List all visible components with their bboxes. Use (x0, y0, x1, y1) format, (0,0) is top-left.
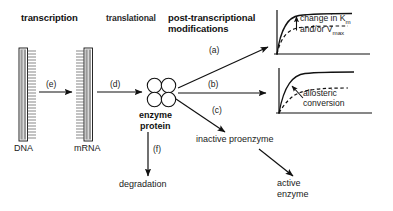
mrna-strand-graphic (76, 48, 93, 141)
node-label-inactive-proenzyme: inactive proenzyme (196, 134, 274, 144)
step-label-e: (e) (46, 79, 56, 89)
graph1-annotation-text2: and/or V (300, 24, 333, 34)
arrow-c (176, 99, 225, 132)
arrow-a (178, 47, 268, 88)
graph1-annotation-text1: change in K (300, 13, 345, 23)
enzyme-protein-graphic (147, 78, 175, 106)
step-label-a: (a) (209, 45, 219, 55)
dna-strand-graphic (19, 48, 36, 141)
node-label-degradation: degradation (119, 179, 167, 189)
diagram-canvas: transcription translational post-transcr… (0, 0, 393, 211)
node-label-enzyme-line2: protein (140, 121, 171, 131)
graph2-annotation-line2: conversion (303, 99, 345, 109)
step-label-f: (f) (153, 144, 161, 154)
step-label-c: (c) (212, 105, 222, 115)
graph1-annotation-sub2: max (333, 29, 345, 36)
graph1-annotation-sub1: m (345, 18, 350, 25)
step-label-d: (d) (110, 79, 120, 89)
step-label-b: (b) (208, 79, 218, 89)
node-label-enzyme-line1: enzyme (139, 110, 172, 120)
node-label-active-enzyme-line2: enzyme (277, 189, 309, 199)
graph1-annotation-line2: and/or Vmax (300, 25, 344, 37)
node-label-mrna: mRNA (74, 143, 101, 153)
node-label-active-enzyme-line1: active (277, 178, 301, 188)
node-label-dna: DNA (14, 143, 33, 153)
arrow-proenzyme-to-active (259, 149, 293, 176)
